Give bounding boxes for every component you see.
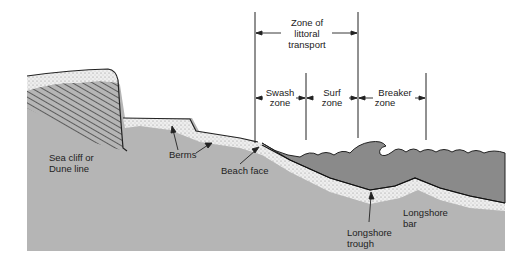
sea-cliff-label-2: Dune line xyxy=(49,163,89,174)
littoral-label-1: Zone of xyxy=(291,17,324,28)
beach-profile-diagram: Zone of littoral transport Swash zone Su… xyxy=(0,0,528,267)
littoral-label-2: littoral xyxy=(294,28,319,39)
longshore-bar-label-1: Longshore xyxy=(403,207,448,218)
longshore-trough-label-1: Longshore xyxy=(347,227,392,238)
littoral-label-3: transport xyxy=(288,39,326,50)
surf-label-2: zone xyxy=(322,97,343,108)
swash-label-2: zone xyxy=(270,97,291,108)
breaker-label-2: zone xyxy=(375,97,396,108)
berms-label: Berms xyxy=(169,149,197,160)
longshore-bar-label-2: bar xyxy=(403,218,417,229)
zone-boundaries xyxy=(255,12,426,143)
longshore-trough-label-2: trough xyxy=(347,238,374,249)
beach-face-label: Beach face xyxy=(221,165,269,176)
sea-cliff-label-1: Sea cliff or xyxy=(49,152,94,163)
